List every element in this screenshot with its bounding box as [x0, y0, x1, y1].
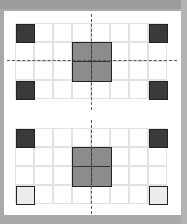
- grid-cell: [15, 166, 34, 185]
- grid-cell: [34, 128, 53, 147]
- bottom-vertical-symmetry-line: [91, 120, 92, 214]
- grid-cell: [129, 42, 148, 61]
- grid-cell: [148, 166, 167, 185]
- grid-cell: [53, 80, 72, 99]
- grid-cell: [91, 80, 110, 99]
- grid-cell: [148, 42, 167, 61]
- top-border: [0, 0, 187, 9]
- grid-cell: [91, 185, 110, 204]
- grid-cell: [53, 42, 72, 61]
- dark-shaded-square: [16, 129, 35, 148]
- grid-cell: [110, 80, 129, 99]
- grid-cell: [129, 61, 148, 80]
- grid-cell: [72, 23, 91, 42]
- grid-cell: [53, 147, 72, 166]
- grid-cell: [129, 147, 148, 166]
- dark-shaded-square: [149, 81, 168, 100]
- grid-cell: [129, 185, 148, 204]
- grid-cell: [110, 147, 129, 166]
- grid-cell: [148, 61, 167, 80]
- grid-cell: [15, 61, 34, 80]
- top-horizontal-symmetry-line: [7, 60, 177, 61]
- dark-shaded-square: [149, 24, 168, 43]
- grid-cell: [34, 23, 53, 42]
- grid-cell: [129, 128, 148, 147]
- grid-cell: [34, 147, 53, 166]
- grid-cell: [53, 166, 72, 185]
- grid-cell: [34, 80, 53, 99]
- grid-cell: [110, 185, 129, 204]
- mid-shaded-square: [72, 147, 112, 187]
- dark-shaded-square: [149, 129, 168, 148]
- dark-shaded-square: [16, 24, 35, 43]
- grid-cell: [34, 61, 53, 80]
- grid-cell: [34, 185, 53, 204]
- grid-cell: [148, 147, 167, 166]
- grid-cell: [129, 23, 148, 42]
- grid-cell: [72, 128, 91, 147]
- grid-cell: [110, 23, 129, 42]
- grid-cell: [72, 80, 91, 99]
- grid-cell: [53, 128, 72, 147]
- grid-cell: [72, 185, 91, 204]
- mid-shaded-square: [72, 42, 112, 82]
- right-border: [181, 0, 187, 224]
- dark-shaded-square: [16, 81, 35, 100]
- grid-cell: [110, 166, 129, 185]
- grid-cell: [34, 166, 53, 185]
- grid-cell: [15, 42, 34, 61]
- grid-cell: [110, 128, 129, 147]
- grid-cell: [110, 61, 129, 80]
- grid-cell: [53, 61, 72, 80]
- light-shaded-square: [149, 186, 168, 205]
- grid-cell: [15, 147, 34, 166]
- top-vertical-symmetry-line: [91, 14, 92, 110]
- grid-cell: [129, 166, 148, 185]
- grid-cell: [34, 42, 53, 61]
- grid-cell: [53, 23, 72, 42]
- grid-cell: [129, 80, 148, 99]
- grid-cell: [53, 185, 72, 204]
- grid-cell: [110, 42, 129, 61]
- light-shaded-square: [16, 186, 35, 205]
- grid-cell: [91, 23, 110, 42]
- grid-cell: [91, 128, 110, 147]
